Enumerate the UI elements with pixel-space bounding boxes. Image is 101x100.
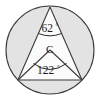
inscribed-angle-degree-icon: °	[56, 22, 59, 30]
inscribed-angle-label: 62	[42, 22, 54, 34]
center-point-label: C	[46, 43, 53, 55]
geometry-diagram: 62 ° C 122 °	[0, 0, 101, 100]
central-angle-degree-icon: °	[57, 64, 60, 72]
central-angle-label: 122	[37, 64, 55, 76]
geometry-figure: 62 ° C 122 °	[0, 0, 101, 100]
